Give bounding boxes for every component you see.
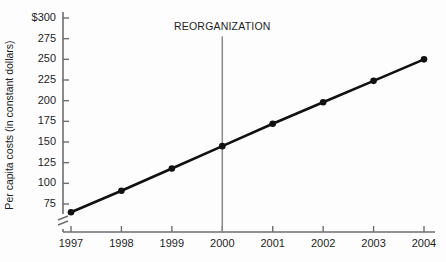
y-axis-title: Per capita costs (in constant dollars)	[3, 40, 15, 209]
data-point-marker[interactable]	[68, 209, 75, 216]
x-axis-tick-label: 1998	[109, 237, 133, 249]
data-point-marker[interactable]	[219, 143, 226, 150]
x-axis-tick-label: 2002	[311, 237, 335, 249]
data-point-marker[interactable]	[421, 56, 428, 63]
x-axis-tick-label: 2004	[412, 237, 436, 249]
x-axis-tick-label: 1999	[160, 237, 184, 249]
data-point-marker[interactable]	[118, 187, 125, 194]
y-axis-break-mark-lower	[58, 221, 68, 225]
y-axis-tick-label: 100	[38, 176, 56, 188]
y-axis-tick-label: $300	[32, 11, 56, 23]
x-axis-tick-label: 2000	[210, 237, 234, 249]
line-chart-canvas: 75100125150175200225250275$3001997199819…	[0, 0, 446, 262]
x-axis-tick-label: 2001	[260, 237, 284, 249]
data-point-marker[interactable]	[370, 78, 377, 85]
x-axis-tick-label: 1997	[59, 237, 83, 249]
y-axis-tick-label: 200	[38, 94, 56, 106]
y-axis-tick-label: 150	[38, 135, 56, 147]
reorganization-label: REORGANIZATION	[174, 20, 271, 32]
data-point-marker[interactable]	[169, 165, 176, 172]
data-point-marker[interactable]	[320, 99, 327, 106]
chart-figure: 75100125150175200225250275$3001997199819…	[0, 0, 446, 262]
y-axis-tick-label: 275	[38, 32, 56, 44]
y-axis-tick-label: 250	[38, 52, 56, 64]
y-axis-tick-label: 225	[38, 73, 56, 85]
y-axis-tick-label: 125	[38, 156, 56, 168]
data-point-marker[interactable]	[269, 121, 276, 128]
y-axis-tick-label: 75	[44, 197, 56, 209]
y-axis-break-mark-upper	[58, 216, 68, 220]
y-axis-tick-label: 175	[38, 114, 56, 126]
x-axis-tick-label: 2003	[361, 237, 385, 249]
